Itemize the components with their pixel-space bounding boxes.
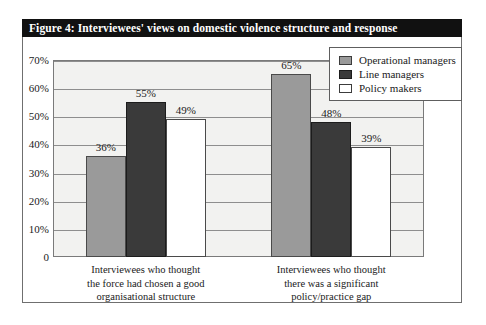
legend-swatch-icon xyxy=(339,84,352,93)
legend-label: Policy makers xyxy=(359,82,422,94)
y-axis-tick-label: 40% xyxy=(5,138,49,150)
legend-item: Line managers xyxy=(339,67,455,81)
bar-value-label: 65% xyxy=(281,59,301,71)
bar-1-2 xyxy=(126,102,166,257)
legend-label: Line managers xyxy=(359,68,424,80)
legend-label: Operational managers xyxy=(359,54,456,66)
legend-swatch-icon xyxy=(339,56,352,65)
bar-value-label: 36% xyxy=(96,141,116,153)
figure-screenshot: Figure 4: Interviewees' views on domesti… xyxy=(0,0,486,325)
y-axis-tick-label: 60% xyxy=(5,82,49,94)
gridline xyxy=(54,117,423,118)
bar-1-3 xyxy=(166,119,206,257)
y-axis-tick-label: 0 xyxy=(5,251,49,263)
chart-legend: Operational managersLine managersPolicy … xyxy=(329,47,462,101)
x-axis-category-label: Interviewees who thought the force had c… xyxy=(51,263,241,304)
legend-swatch-icon xyxy=(339,70,352,79)
x-axis-category-label: Interviewees who thought there was a sig… xyxy=(236,263,426,304)
bar-value-label: 49% xyxy=(176,104,196,116)
y-axis-tick-label: 70% xyxy=(5,54,49,66)
bar-2-3 xyxy=(351,147,391,257)
legend-item: Policy makers xyxy=(339,81,455,95)
bar-2-2 xyxy=(311,122,351,257)
figure-title: Figure 4: Interviewees' views on domesti… xyxy=(29,22,398,34)
y-axis-tick-label: 10% xyxy=(5,223,49,235)
figure-title-bar: Figure 4: Interviewees' views on domesti… xyxy=(22,19,462,37)
y-axis-tick-label: 50% xyxy=(5,110,49,122)
bar-value-label: 39% xyxy=(361,132,381,144)
bar-2-1 xyxy=(271,74,311,257)
bar-1-1 xyxy=(86,156,126,257)
bar-value-label: 55% xyxy=(136,87,156,99)
bar-value-label: 48% xyxy=(321,107,341,119)
y-axis: 70%60%50%40%30%20%10%0 xyxy=(5,60,49,257)
legend-item: Operational managers xyxy=(339,53,455,67)
y-axis-tick-label: 30% xyxy=(5,167,49,179)
y-axis-tick-label: 20% xyxy=(5,195,49,207)
